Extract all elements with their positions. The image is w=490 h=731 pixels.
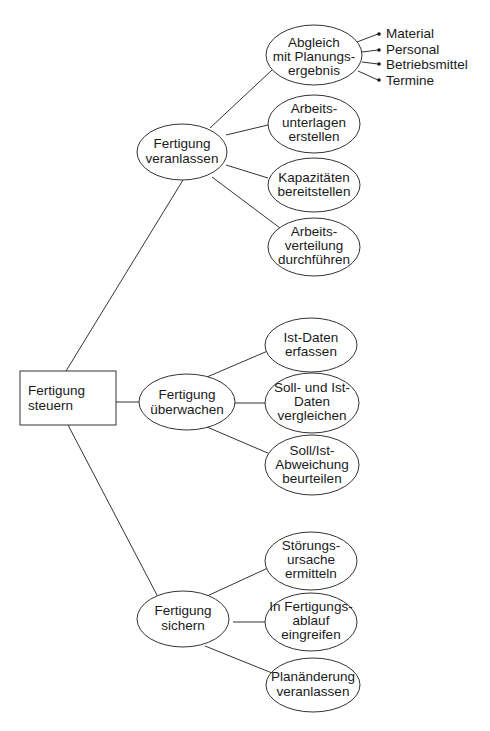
edge-leaf-betriebsmittel	[362, 62, 378, 64]
node-arbeitsverteilung-durchfuehren: Arbeits- verteilung durchführen	[268, 218, 360, 276]
node-label: Soll/Ist-	[289, 443, 334, 458]
leaf-material: Material	[386, 26, 434, 41]
edge-b2-c3	[207, 427, 270, 454]
node-label: steuern	[28, 398, 73, 413]
leaf-personal: Personal	[386, 42, 439, 57]
node-label: verteilung	[285, 238, 344, 253]
edge-b3-c1	[205, 567, 270, 597]
leaf-termine: Termine	[386, 73, 434, 88]
node-label: ergebnis	[288, 63, 340, 78]
node-label: Arbeits-	[291, 224, 338, 239]
node-label: ablauf	[293, 613, 330, 628]
edge-leaf-termine	[358, 71, 378, 80]
node-label: bereitstellen	[278, 184, 351, 199]
diagram-canvas: Fertigung steuern Fertigung veranlassen …	[0, 0, 490, 731]
node-soll-ist-abweichung-beurteilen: Soll/Ist- Abweichung beurteilen	[265, 435, 359, 495]
leaf-betriebsmittel: Betriebsmittel	[386, 57, 468, 72]
node-ist-daten-erfassen: Ist-Daten erfassen	[265, 318, 357, 372]
node-label: beurteilen	[282, 471, 341, 486]
edge-root-b3	[68, 425, 158, 597]
node-label: Abgleich	[288, 35, 340, 50]
node-label: Planänderung	[271, 669, 355, 684]
node-arbeitsunterlagen-erstellen: Arbeits- unterlagen erstellen	[268, 95, 360, 153]
edge-b2-c1	[207, 350, 270, 377]
node-fertigung-sichern: Fertigung sichern	[137, 591, 229, 647]
node-fertigung-veranlassen: Fertigung veranlassen	[137, 124, 227, 180]
node-stoerungsursache-ermitteln: Störungs- ursache ermitteln	[265, 532, 357, 590]
node-label: Daten	[294, 394, 330, 409]
edge-b1-c1	[210, 70, 272, 128]
node-soll-ist-daten-vergleichen: Soll- und Ist- Daten vergleichen	[265, 373, 359, 433]
node-label: eingreifen	[281, 627, 340, 642]
node-fertigung-steuern: Fertigung steuern	[20, 371, 116, 425]
edge-leaf-personal	[362, 50, 378, 52]
node-label: Arbeits-	[291, 101, 338, 116]
edge-b1-c2	[226, 125, 268, 135]
node-label: In Fertigungs-	[269, 599, 352, 614]
node-label: Fertigung	[154, 603, 211, 618]
node-label: Abweichung	[275, 457, 349, 472]
node-in-fertigungsablauf-eingreifen: In Fertigungs- ablauf eingreifen	[265, 593, 357, 651]
edge-b3-c3	[205, 646, 272, 673]
node-label: sichern	[161, 618, 205, 633]
edge-leaf-material	[357, 34, 378, 42]
node-kapazitaeten-bereitstellen: Kapazitäten bereitstellen	[268, 158, 360, 212]
node-label: unterlagen	[282, 115, 346, 130]
node-label: Fertigung	[158, 387, 215, 402]
node-label: Kapazitäten	[278, 170, 349, 185]
node-label: mit Planungs-	[273, 49, 356, 64]
node-label: ursache	[287, 552, 335, 567]
node-label: erstellen	[288, 129, 339, 144]
node-abgleich-mit-planungsergebnis: Abgleich mit Planungs- ergebnis	[266, 25, 362, 85]
node-label: überwachen	[150, 402, 224, 417]
edge-root-b1	[66, 180, 183, 371]
node-label: ermitteln	[285, 566, 337, 581]
node-label: veranlassen	[277, 684, 350, 699]
node-label: erfassen	[285, 344, 337, 359]
node-label: durchführen	[278, 252, 350, 267]
node-planaenderung-veranlassen: Planänderung veranlassen	[266, 658, 360, 712]
edge-b1-c3	[226, 165, 268, 178]
node-label: Ist-Daten	[284, 330, 339, 345]
node-label: Fertigung	[153, 136, 210, 151]
node-label: vergleichen	[277, 408, 346, 423]
node-label: Soll- und Ist-	[274, 380, 350, 395]
node-fertigung-ueberwachen: Fertigung überwachen	[139, 374, 235, 430]
node-label: Störungs-	[282, 538, 341, 553]
node-label: veranlassen	[146, 151, 219, 166]
node-label: Fertigung	[28, 383, 85, 398]
leaf-list: Material Personal Betriebsmittel Termine	[377, 26, 468, 88]
